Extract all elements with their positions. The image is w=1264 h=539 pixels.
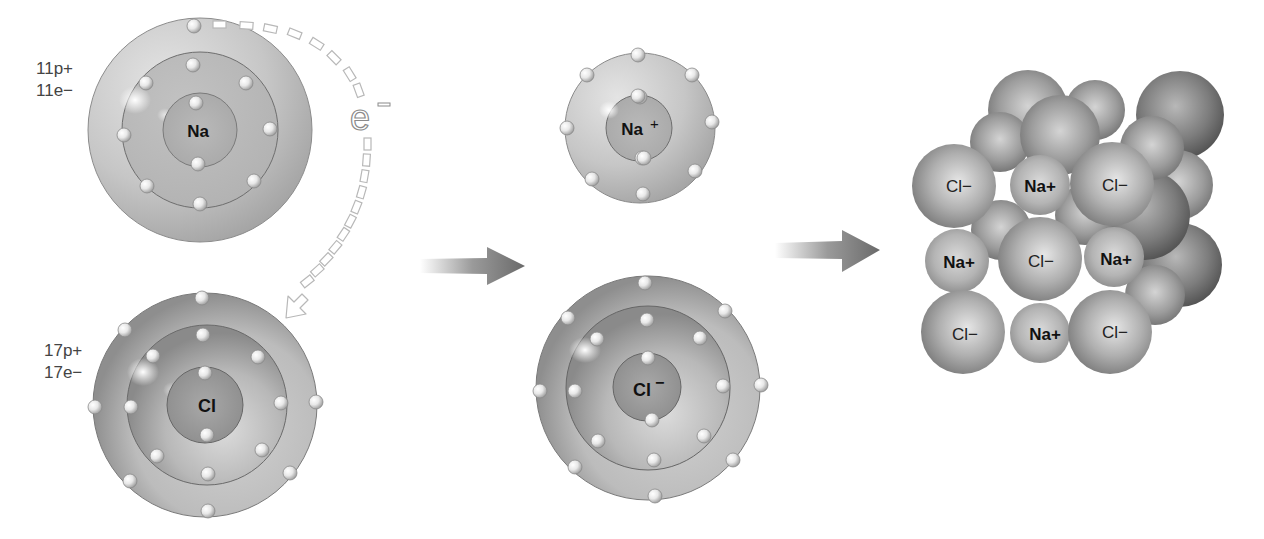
lattice-ion-r3c3: Cl− <box>1102 323 1128 342</box>
chloride-ion-charge: − <box>655 374 664 391</box>
lattice-ion-r2c2: Cl− <box>1028 252 1054 271</box>
chloride-ion-symbol: Cl <box>633 380 651 400</box>
lattice-ion-r3c2: Na+ <box>1029 325 1061 344</box>
nacl-formation-diagram: Na e <box>0 0 1264 539</box>
chlorine-charge-annotation: 17p+ 17e− <box>44 340 82 384</box>
lattice-ion-r2c3: Na+ <box>1100 250 1132 269</box>
reaction-arrow-2 <box>775 230 880 272</box>
lattice-ion-r3c1: Cl− <box>952 325 978 344</box>
lattice-ion-r2c1: Na+ <box>943 253 975 272</box>
chlorine-symbol: Cl <box>198 396 216 416</box>
chlorine-protons-label: 17p+ <box>44 340 82 362</box>
electron-transfer-label: e <box>350 97 370 138</box>
sodium-symbol: Na <box>187 122 209 141</box>
lattice-ion-r1c3: Cl− <box>1102 176 1128 195</box>
lattice-ion-r1c1: Cl− <box>946 177 972 196</box>
chlorine-electrons-label: 17e− <box>44 362 82 384</box>
sodium-charge-annotation: 11p+ 11e− <box>36 58 73 102</box>
sodium-protons-label: 11p+ <box>36 58 73 80</box>
electron-charge-mark <box>378 103 390 106</box>
sodium-ion-charge: + <box>650 115 659 132</box>
reaction-arrow-1 <box>420 247 525 285</box>
sodium-ion-symbol: Na <box>621 120 643 139</box>
lattice-ion-r1c2: Na+ <box>1024 177 1056 196</box>
sodium-electrons-label: 11e− <box>36 80 73 102</box>
